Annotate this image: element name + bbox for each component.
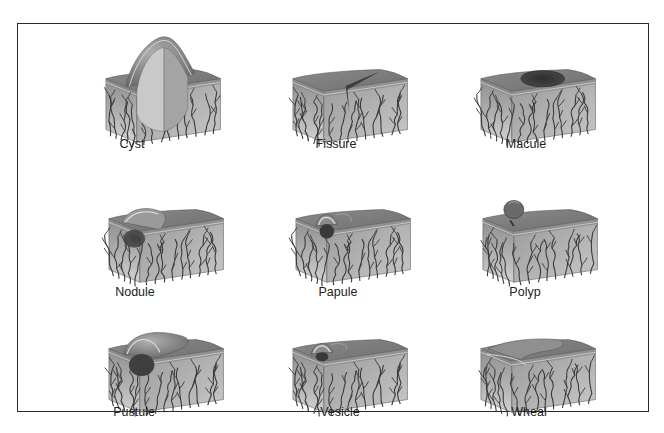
macule-illustration	[460, 35, 620, 135]
skin-block	[289, 210, 410, 287]
lesion-fissure: Fissure	[272, 35, 432, 155]
lesion-vesicle: Vesicle	[272, 305, 432, 425]
skin-block	[289, 70, 408, 147]
lesion-polyp: Polyp	[462, 175, 622, 295]
lesion-wheal: Wheal	[460, 305, 620, 425]
lesion-label: Pustule	[54, 405, 214, 419]
lesion-papule: Papule	[275, 175, 435, 295]
macule-spot	[521, 70, 565, 86]
lesion-macule: Macule	[460, 35, 620, 155]
cyst-illustration	[85, 35, 245, 135]
lesion-label: Polyp	[445, 285, 605, 299]
vesicle-illustration	[272, 305, 432, 405]
lesion-label: Fissure	[256, 137, 416, 151]
polyp-head	[504, 200, 524, 218]
lesion-cyst: Cyst	[85, 35, 245, 155]
lesion-label: Cyst	[52, 137, 212, 151]
fissure-illustration	[272, 35, 432, 135]
lesion-label: Macule	[446, 137, 606, 151]
lesion-pustule: Pustule	[88, 305, 248, 425]
nodule-illustration	[88, 175, 248, 275]
polyp-illustration	[462, 175, 622, 275]
papule-illustration	[275, 175, 435, 275]
skin-block	[481, 200, 598, 286]
vesicle-fluid	[316, 352, 329, 361]
skin-block	[105, 333, 224, 417]
skin-block	[104, 37, 220, 147]
lesion-label: Papule	[258, 285, 418, 299]
pustule-pocket	[129, 354, 154, 376]
lesion-label: Nodule	[55, 285, 215, 299]
lesion-label: Vesicle	[260, 405, 420, 419]
skin-block	[474, 70, 595, 147]
nodule-mass	[123, 230, 145, 248]
pustule-illustration	[88, 305, 248, 405]
skin-block	[102, 209, 223, 287]
papule-core	[320, 224, 335, 239]
wheal-illustration	[460, 305, 620, 405]
lesion-label: Wheal	[449, 405, 609, 419]
lesion-nodule: Nodule	[88, 175, 248, 295]
